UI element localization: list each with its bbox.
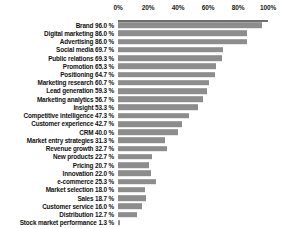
chart-row: Social media 69.7 % [0, 46, 282, 54]
bar [118, 47, 223, 53]
bar [118, 22, 262, 28]
bar [118, 121, 182, 127]
bar [118, 171, 151, 177]
bar-category-label: Competitive intelligence 47.3 % [0, 112, 116, 119]
bar-track [116, 153, 280, 161]
chart-row: Distribution 12.7 % [0, 210, 282, 218]
bar-track [116, 112, 280, 120]
bar-category-label: Marketing research 60.7 % [0, 79, 116, 86]
bar [118, 31, 247, 37]
bar-category-label: Public relations 69.3 % [0, 55, 116, 62]
chart-row: Marketing analytics 56.7 % [0, 95, 282, 103]
bar-track [116, 128, 280, 136]
bar-track [116, 21, 280, 29]
chart-row: Marketing research 60.7 % [0, 79, 282, 87]
chart-row: Brand 96.0 % [0, 21, 282, 29]
bar-track [116, 186, 280, 194]
chart-row: Stock market performance 1.3 % [0, 219, 282, 227]
bar-track [116, 219, 280, 227]
bar-category-label: CRM 40.0 % [0, 129, 116, 136]
chart-row: Lead generation 59.3 % [0, 87, 282, 95]
horizontal-bar-chart: 0%20%40%60%80%100% Brand 96.0 %Digital m… [0, 0, 282, 228]
bar-track [116, 161, 280, 169]
bar [118, 146, 167, 152]
bar [118, 179, 156, 185]
bar-category-label: Digital marketing 86.0 % [0, 30, 116, 37]
bar [118, 195, 146, 201]
bar [118, 72, 215, 78]
bar-track [116, 103, 280, 111]
axis-tick-label: 0% [113, 4, 122, 12]
bar-track [116, 202, 280, 210]
axis-tick-label: 40% [172, 4, 185, 12]
bar [118, 162, 149, 168]
chart-row: New products 22.7 % [0, 153, 282, 161]
chart-row: Market entry strategies 31.3 % [0, 136, 282, 144]
chart-row: Revenue growth 32.7 % [0, 145, 282, 153]
bar-track [116, 79, 280, 87]
bar-category-label: Customer experience 42.7 % [0, 120, 116, 127]
bar-category-label: e-commerce 25.3 % [0, 178, 116, 185]
bar-category-label: Social media 69.7 % [0, 46, 116, 53]
bar-track [116, 169, 280, 177]
bar-category-label: Brand 96.0 % [0, 22, 116, 29]
bar [118, 96, 203, 102]
bar-category-label: Insight 53.3 % [0, 104, 116, 111]
bar-track [116, 145, 280, 153]
chart-row: Promotion 65.3 % [0, 62, 282, 70]
chart-x-axis: 0%20%40%60%80%100% [0, 0, 282, 22]
bar [118, 39, 247, 45]
bar [118, 55, 222, 61]
bar-category-label: Customer service 16.0 % [0, 203, 116, 210]
chart-row: Customer service 16.0 % [0, 202, 282, 210]
bar-track [116, 54, 280, 62]
bar [118, 187, 145, 193]
chart-row: Advertising 86.0 % [0, 37, 282, 45]
bar-category-label: Lead generation 59.3 % [0, 87, 116, 94]
bar-category-label: Market entry strategies 31.3 % [0, 137, 116, 144]
bar-category-label: Promotion 65.3 % [0, 63, 116, 70]
bar [118, 220, 120, 226]
axis-tick-label: 100% [260, 4, 276, 12]
chart-row: Customer experience 42.7 % [0, 120, 282, 128]
bar-category-label: Marketing analytics 56.7 % [0, 96, 116, 103]
bar-track [116, 120, 280, 128]
axis-tick-label: 60% [202, 4, 215, 12]
bar [118, 138, 165, 144]
bar-category-label: New products 22.7 % [0, 153, 116, 160]
bar-track [116, 177, 280, 185]
axis-tick-label: 20% [142, 4, 155, 12]
bar [118, 203, 142, 209]
bar-track [116, 46, 280, 54]
chart-row: Market selection 18.0 % [0, 186, 282, 194]
bar [118, 80, 209, 86]
bar [118, 88, 207, 94]
bar-track [116, 194, 280, 202]
bar-category-label: Innovation 22.0 % [0, 170, 116, 177]
bar [118, 105, 198, 111]
chart-row: Competitive intelligence 47.3 % [0, 112, 282, 120]
chart-row: Innovation 22.0 % [0, 169, 282, 177]
bar-track [116, 29, 280, 37]
bar [118, 113, 189, 119]
bar-track [116, 210, 280, 218]
chart-row: Positioning 64.7 % [0, 70, 282, 78]
bar-category-label: Market selection 18.0 % [0, 186, 116, 193]
bar-category-label: Positioning 64.7 % [0, 71, 116, 78]
bar-track [116, 62, 280, 70]
chart-row: Pricing 20.7 % [0, 161, 282, 169]
bar [118, 63, 216, 69]
bar-category-label: Pricing 20.7 % [0, 162, 116, 169]
bar-track [116, 70, 280, 78]
bar [118, 212, 137, 218]
bar-track [116, 95, 280, 103]
chart-row: e-commerce 25.3 % [0, 177, 282, 185]
bar [118, 129, 178, 135]
chart-rows: Brand 96.0 %Digital marketing 86.0 %Adve… [0, 21, 282, 227]
bar-category-label: Stock market performance 1.3 % [0, 219, 116, 226]
chart-row: Digital marketing 86.0 % [0, 29, 282, 37]
bar-category-label: Revenue growth 32.7 % [0, 145, 116, 152]
bar-track [116, 136, 280, 144]
bar-category-label: Advertising 86.0 % [0, 38, 116, 45]
chart-row: CRM 40.0 % [0, 128, 282, 136]
